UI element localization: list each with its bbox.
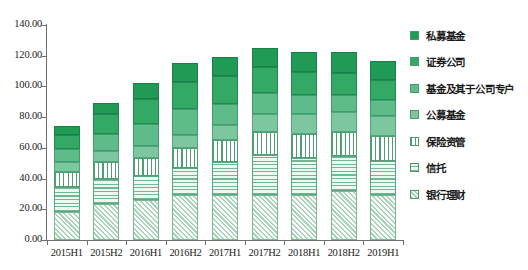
y-axis-tick-mark [41,56,46,57]
x-axis-tick-mark [245,241,246,245]
bar-segment-xintuo [172,168,198,195]
legend-label: 基金及其于公司专户 [426,81,514,96]
bar-segment-gongmu [54,162,80,172]
y-axis-tick-label: 120.00 [0,49,42,60]
legend-item-simu[interactable]: 私募基金 [410,22,528,49]
bar-segment-zhuanhu [172,109,198,134]
bar-segment-baoxian [370,136,396,161]
bar-segment-simu [212,57,238,76]
y-axis-tick-mark [41,25,46,26]
bar-segment-yinhang [93,204,119,240]
plot-area [47,25,403,240]
y-axis-tick-mark [41,240,46,241]
legend-swatch-icon [410,31,419,40]
bar-stack [252,48,278,240]
bar-segment-yinhang [370,195,396,240]
x-axis-tick-mark [166,241,167,245]
bar-stack [331,52,357,240]
bar-segment-gongmu [291,114,317,134]
legend-swatch-icon [410,137,419,146]
x-axis-tick-label: 2015H2 [87,247,127,258]
bar-segment-yinhang [212,195,238,240]
legend-swatch-icon [410,190,419,199]
legend-swatch-icon [410,84,419,93]
y-axis-tick-mark [41,209,46,210]
legend-item-yinhang[interactable]: 银行理财 [410,181,528,208]
y-axis-tick-label: 80.00 [0,110,42,121]
x-axis-tick-label: 2016H1 [126,247,166,258]
x-axis-tick-mark [284,241,285,245]
bar-segment-simu [331,52,357,72]
bar-segment-simu [54,126,80,136]
bar-segment-xintuo [93,179,119,204]
y-axis-tick-mark [41,86,46,87]
bar-segment-zhengquan [172,82,198,110]
bar-segment-gongmu [252,114,278,132]
bar-segment-zhuanhu [93,134,119,151]
bar-segment-simu [291,52,317,72]
bar-stack [93,103,119,240]
legend-label: 银行理财 [426,187,465,202]
bar-segment-xintuo [291,158,317,196]
bar-segment-baoxian [93,162,119,179]
bar-segment-zhengquan [93,114,119,134]
bar-segment-xintuo [252,155,278,195]
bar-stack [133,83,159,240]
legend-item-zhengquan[interactable]: 证券公司 [410,49,528,76]
legend-item-baoxian[interactable]: 保险资管 [410,128,528,155]
bar-segment-zhengquan [370,80,396,100]
bar-segment-zhuanhu [252,93,278,114]
x-axis-tick-label: 2017H2 [245,247,285,258]
legend-label: 保险资管 [426,134,465,149]
chart-legend: 私募基金证券公司基金及其于公司专户公募基金保险资管信托银行理财 [410,22,528,208]
bar-segment-zhengquan [252,67,278,93]
bar-segment-baoxian [291,134,317,157]
bar-segment-zhengquan [54,135,80,149]
x-axis-tick-label: 2016H2 [166,247,206,258]
bar-segment-simu [133,83,159,100]
bar-segment-baoxian [172,148,198,168]
x-axis-tick-label: 2015H1 [47,247,87,258]
bar-stack [370,61,396,240]
bar-segment-baoxian [133,158,159,176]
bar-segment-zhuanhu [133,124,159,146]
bar-segment-zhengquan [291,72,317,95]
y-axis-tick-mark [41,148,46,149]
bar-segment-xintuo [133,176,159,199]
bar-segment-yinhang [291,195,317,240]
bar-segment-yinhang [252,195,278,240]
y-axis-tick-label: 20.00 [0,202,42,213]
bar-segment-yinhang [54,212,80,240]
legend-item-zhuanhu[interactable]: 基金及其于公司专户 [410,75,528,102]
bar-segment-baoxian [54,172,80,188]
legend-item-xintuo[interactable]: 信托 [410,155,528,182]
x-axis-tick-label: 2017H1 [205,247,245,258]
bar-segment-gongmu [331,112,357,132]
legend-item-gongmu[interactable]: 公募基金 [410,102,528,129]
x-axis-tick-mark [47,241,48,245]
bar-segment-zhuanhu [291,95,317,114]
bar-segment-simu [370,61,396,80]
x-axis-line [46,240,404,241]
y-axis-tick-label: 0.00 [0,233,42,244]
bar-segment-simu [252,48,278,68]
x-axis-tick-mark [87,241,88,245]
x-axis-tick-mark [403,241,404,245]
x-axis-tick-label: 2019H1 [363,247,403,258]
bar-stack [212,57,238,240]
legend-swatch-icon [410,163,419,172]
y-axis-tick-mark [41,117,46,118]
x-axis-tick-mark [324,241,325,245]
stacked-bar-chart: 0.0020.0040.0060.0080.00100.00120.00140.… [0,0,528,270]
bar-segment-yinhang [172,195,198,240]
bar-segment-baoxian [331,132,357,156]
legend-label: 私募基金 [426,28,465,43]
y-axis-tick-label: 60.00 [0,141,42,152]
bar-segment-baoxian [252,132,278,155]
y-axis-tick-label: 100.00 [0,79,42,90]
bar-segment-gongmu [172,135,198,149]
x-axis-tick-mark [363,241,364,245]
bar-segment-zhuanhu [331,95,357,113]
bar-segment-gongmu [133,146,159,158]
bar-segment-zhuanhu [370,100,396,116]
